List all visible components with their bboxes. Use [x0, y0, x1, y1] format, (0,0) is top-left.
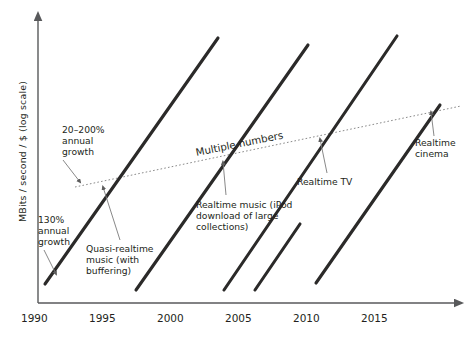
leader-realtime-music: [223, 162, 226, 195]
series-line-3: [224, 36, 397, 290]
annotation-realtime-tv: Realtime TV: [297, 176, 352, 187]
series-line-2: [136, 45, 308, 290]
trend-line-multiple-numbers: [75, 106, 461, 187]
leader-quasi-realtime-music: [103, 187, 120, 240]
xtick-label-5: 2015: [361, 312, 388, 324]
xtick-label-1: 1995: [89, 312, 116, 324]
annotation-realtime-cinema: Realtime cinema: [415, 137, 456, 159]
xtick-label-0: 1990: [21, 312, 48, 324]
annotation-growth-130: 130% annual growth: [38, 214, 70, 248]
xtick-label-2: 2000: [157, 312, 184, 324]
annotation-quasi-realtime-music: Quasi-realtime music (with buffering): [86, 243, 154, 277]
xtick-label-4: 2010: [293, 312, 320, 324]
chart-plot-area: 1990 1995 2000 2005 2010 2015: [0, 0, 474, 343]
leader-20-200-growth: [63, 160, 80, 182]
series-line-4: [316, 105, 440, 283]
chart-figure: 1990 1995 2000 2005 2010 2015 MBits / se…: [0, 0, 474, 343]
y-axis-label: MBits / second / $ (log scale): [17, 52, 28, 252]
xtick-label-3: 2005: [225, 312, 252, 324]
annotation-growth-20-200: 20–200% annual growth: [62, 124, 105, 158]
annotation-realtime-music: Realtime music (iPod download of large c…: [196, 199, 292, 233]
leader-130-growth: [44, 250, 56, 274]
